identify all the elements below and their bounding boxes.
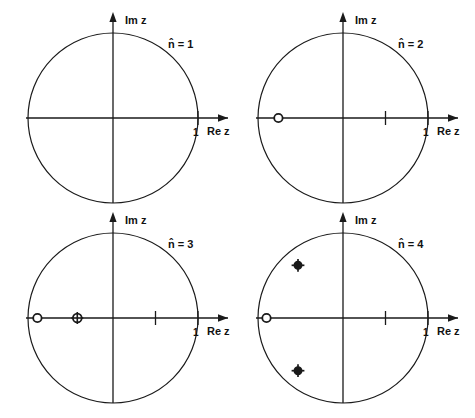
- real-axis-arrow-icon: [218, 314, 228, 322]
- marker-open-circle: [262, 314, 270, 322]
- marker-open-circle: [33, 314, 41, 322]
- marker-crossed-circle: [71, 312, 83, 324]
- imag-axis-label: Im z: [355, 214, 377, 226]
- imag-axis-label: Im z: [125, 214, 147, 226]
- panel-annotation: n̂ = 3: [168, 238, 193, 250]
- panel-n1-canvas: Im z 1 Re z n̂ = 1: [0, 0, 238, 209]
- real-axis-label: Re z: [207, 325, 230, 337]
- real-axis-arrow-icon: [218, 114, 228, 122]
- panel-annotation: n̂ = 2: [398, 38, 423, 50]
- panel-n1: Im z 1 Re z n̂ = 1: [0, 0, 238, 209]
- imag-axis-label: Im z: [125, 14, 147, 26]
- panel-n4: Im z 1 Re z n̂ = 4: [237, 205, 475, 414]
- panel-annotation: n̂ = 1: [168, 38, 193, 50]
- real-axis-arrow-icon: [448, 314, 458, 322]
- marker-crossed-circle-upper: [292, 259, 305, 272]
- panel-n2-canvas: Im z 1 Re z n̂ = 2: [237, 0, 475, 209]
- real-axis-label: Re z: [207, 125, 230, 137]
- marker-crossed-circle-lower: [292, 364, 305, 377]
- unit-tick-label: 1: [193, 127, 199, 138]
- real-axis-label: Re z: [437, 125, 460, 137]
- imag-axis-label: Im z: [355, 14, 377, 26]
- imag-axis-arrow-icon: [109, 12, 116, 22]
- imag-axis-arrow-icon: [339, 212, 346, 222]
- panel-n3-canvas: Im z 1 Re z n̂ = 3: [0, 205, 238, 418]
- unit-tick-label: 1: [423, 127, 429, 138]
- panel-n3: Im z 1 Re z n̂ = 3: [0, 205, 238, 414]
- panel-n4-canvas: Im z 1 Re z n̂ = 4: [237, 205, 475, 418]
- imag-axis-arrow-icon: [109, 212, 116, 222]
- panel-annotation: n̂ = 4: [398, 238, 424, 250]
- unit-tick-label: 1: [423, 327, 429, 338]
- real-axis-arrow-icon: [448, 114, 458, 122]
- panel-n2: Im z 1 Re z n̂ = 2: [237, 0, 475, 209]
- imag-axis-arrow-icon: [339, 12, 346, 22]
- unit-tick-label: 1: [193, 327, 199, 338]
- marker-open-circle: [274, 114, 282, 122]
- real-axis-label: Re z: [437, 325, 460, 337]
- figure-root: Im z 1 Re z n̂ = 1 Im z 1 Re z n̂ = 2: [0, 0, 475, 418]
